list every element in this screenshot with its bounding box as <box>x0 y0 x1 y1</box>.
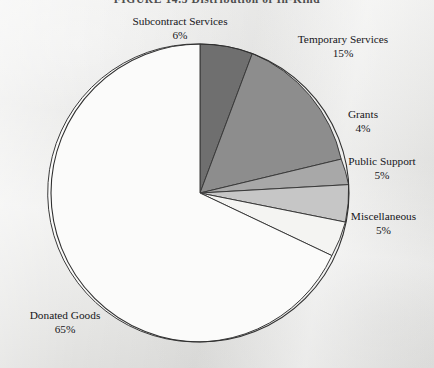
label-temporary-services-value: 15% <box>272 47 414 61</box>
label-temporary-services: Temporary Services 15% <box>272 33 414 61</box>
label-donated-goods-value: 65% <box>6 323 124 337</box>
label-donated-goods: Donated Goods 65% <box>6 309 124 337</box>
label-grants-text: Grants <box>348 108 378 120</box>
label-donated-goods-text: Donated Goods <box>30 309 101 321</box>
label-miscellaneous-value: 5% <box>333 224 434 238</box>
label-public-support-value: 5% <box>330 169 434 183</box>
label-subcontract-services-text: Subcontract Services <box>132 15 227 27</box>
label-subcontract-services-value: 6% <box>109 29 251 43</box>
label-miscellaneous-text: Miscellaneous <box>351 210 416 222</box>
label-subcontract-services: Subcontract Services 6% <box>109 15 251 43</box>
label-public-support: Public Support 5% <box>330 155 434 183</box>
label-grants-value: 4% <box>323 122 403 136</box>
label-temporary-services-text: Temporary Services <box>298 33 389 45</box>
label-public-support-text: Public Support <box>348 155 415 167</box>
label-miscellaneous: Miscellaneous 5% <box>333 210 434 238</box>
label-grants: Grants 4% <box>323 108 403 136</box>
